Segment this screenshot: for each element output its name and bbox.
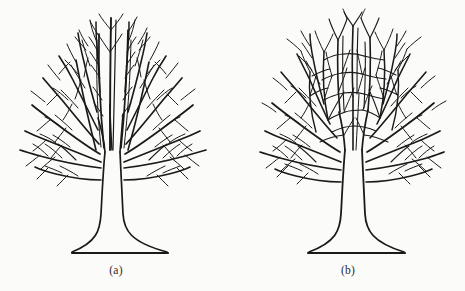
twig-left-12: [295, 126, 306, 140]
twig-crown-3: [98, 34, 110, 52]
twig-right-f1: [135, 40, 143, 66]
trunk-fork-left: [339, 112, 345, 150]
limb-left-1: [260, 152, 341, 170]
twig-right-12: [401, 126, 412, 140]
twig-right-10: [395, 113, 412, 128]
crown-tip-14: [407, 37, 421, 49]
tree-diagram-anastomosing-branching: [232, 0, 464, 262]
twig-right-g6: [122, 103, 131, 116]
leader-central: [110, 18, 111, 150]
twig-crown-11: [48, 65, 60, 80]
twig-left-24: [285, 164, 302, 171]
twig-left-13: [277, 118, 290, 129]
twig-right-24: [405, 164, 422, 171]
twig-right-h3: [157, 175, 168, 186]
twig-left-17: [285, 92, 296, 103]
panel-caption-a: (a): [0, 264, 232, 276]
limb-right-7: [125, 22, 129, 92]
twig-left-f1: [82, 40, 90, 66]
twig-left-h3: [57, 175, 68, 186]
limb-left-6: [310, 34, 324, 104]
crown-tip-8: [324, 34, 333, 52]
limb-left-1: [20, 150, 101, 168]
crown-tip-7: [315, 31, 324, 52]
twig-crown-12: [166, 63, 178, 78]
crown-tip-15: [273, 78, 287, 90]
twig-left-26: [277, 166, 288, 177]
lattice-leader-4: [357, 28, 358, 94]
twig-right-g5: [123, 87, 132, 100]
anastomosis-11: [344, 54, 364, 56]
twig-left-c4: [37, 120, 50, 131]
twig-left-d4: [47, 94, 58, 105]
twig-left-18: [306, 61, 320, 84]
anastomosis-2: [345, 110, 363, 112]
twig-left-8: [273, 140, 286, 151]
limb-right-1: [124, 150, 206, 168]
twig-right-8: [421, 140, 434, 151]
twig-left-4: [266, 157, 280, 168]
lattice-strut-11: [326, 52, 332, 76]
twig-right-c1: [153, 115, 170, 130]
twig-left-10: [295, 113, 312, 128]
twig-crown-13: [31, 91, 45, 102]
lattice-strut-4: [369, 90, 380, 118]
lattice-strut-8: [357, 50, 362, 74]
twig-crown-10: [150, 42, 159, 60]
lattice-leader-3: [352, 26, 353, 96]
anastomosis-5: [344, 92, 364, 94]
twig-left-c1: [55, 115, 72, 130]
limb-right-7: [366, 169, 432, 182]
tree-diagram-open-branching: [0, 0, 232, 262]
limb-right-5: [377, 54, 410, 124]
crown-tip-1: [329, 19, 338, 40]
crown-tip-16: [421, 76, 435, 88]
crown-tip-9: [384, 29, 393, 50]
twig-right-c4: [175, 120, 188, 131]
twig-right-17: [411, 92, 422, 103]
lattice-leader-5: [368, 38, 370, 110]
figure-panel-b: (b): [232, 0, 464, 291]
twig-left-h1: [60, 166, 78, 176]
twig-crown-1: [99, 14, 111, 30]
crown-tip-13: [287, 39, 301, 51]
twig-right-16: [397, 102, 406, 118]
twig-right-26: [419, 166, 430, 177]
trunk-fork-right: [362, 110, 368, 150]
twig-left-16: [301, 102, 310, 118]
twig-right-4: [427, 157, 441, 168]
limb-left-7: [275, 169, 341, 182]
twig-right-a4: [185, 155, 199, 166]
twig-right-h1: [147, 166, 165, 176]
twig-crown-9: [67, 44, 76, 62]
figure-root: (a): [0, 0, 465, 291]
figure-panel-a: (a): [0, 0, 232, 291]
crown-tip-11: [301, 51, 310, 72]
panel-caption-b: (b): [232, 264, 464, 276]
twig-left-e3: [75, 80, 81, 99]
crown-tip-5: [361, 18, 370, 38]
leader-central-shadow: [113, 20, 116, 150]
twig-right-d4: [167, 94, 178, 105]
twig-crown-2: [111, 14, 123, 30]
limb-right-8: [124, 167, 190, 180]
crown-tip-6: [370, 18, 379, 38]
twig-crown-5: [90, 21, 99, 36]
twig-crown-14: [181, 89, 195, 100]
twig-right-e3: [144, 80, 150, 99]
twig-right-13: [417, 118, 430, 129]
crown-tip-19: [343, 9, 347, 19]
crown-tip-4: [353, 12, 362, 26]
lattice-strut-12: [376, 51, 382, 75]
crown-tip-10: [375, 32, 384, 50]
limb-left-8: [35, 167, 101, 180]
twig-left-a4: [26, 155, 40, 166]
